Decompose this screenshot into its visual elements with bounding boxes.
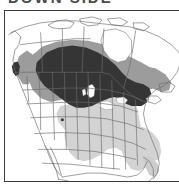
range-map-figure: DOWN SIDE [0,0,179,190]
map-frame [4,10,179,182]
north-america-map [5,11,179,181]
figure-caption-text: DOWN SIDE [8,0,113,6]
figure-caption-cropped: DOWN SIDE [0,0,179,9]
inland-marker [61,118,64,121]
